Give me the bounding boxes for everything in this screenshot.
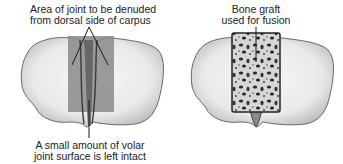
right-carpus-bone [191, 33, 333, 127]
left-carpus-bone [21, 36, 163, 127]
label-denuded-area: Area of joint to be denuded from dorsal … [30, 4, 150, 26]
label-bone-graft: Bone graft used for fusion [210, 4, 302, 26]
label-line: from dorsal side of carpus [30, 15, 150, 26]
label-line: used for fusion [210, 15, 302, 26]
label-line: joint surface is left intact [30, 151, 150, 162]
label-volar-surface: A small amount of volar joint surface is… [30, 140, 150, 162]
